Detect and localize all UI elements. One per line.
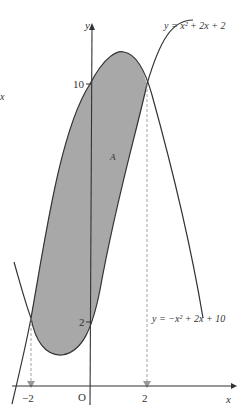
y-axis-label: y xyxy=(85,20,90,31)
y-tick-label-10: 10 xyxy=(73,79,84,90)
x-axis-arrow-icon xyxy=(231,383,237,389)
upward-parabola-equation: y = x² + 2x + 2 xyxy=(164,21,226,31)
area-between-curves-diagram xyxy=(0,0,252,418)
x-tick-label-neg2: −2 xyxy=(22,393,34,404)
shaded-region-a xyxy=(31,52,147,355)
x-tick-label-2: 2 xyxy=(142,393,148,404)
downward-parabola-equation: y = −x² + 2x + 10 xyxy=(152,314,225,324)
x-axis-label: x xyxy=(226,394,231,405)
arrow-down-icon xyxy=(143,381,151,388)
side-label-x: x xyxy=(0,92,4,102)
region-label-a: A xyxy=(110,153,116,162)
y-tick-label-2: 2 xyxy=(79,317,85,328)
origin-label: O xyxy=(78,392,86,403)
arrow-down-icon xyxy=(27,381,35,388)
